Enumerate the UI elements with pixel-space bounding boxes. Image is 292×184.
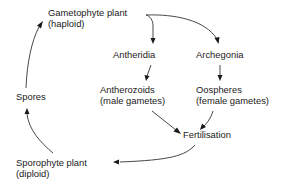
node-spores: Spores [16,92,46,103]
sporophyte-ploidy: (diploid) [16,169,87,180]
node-oospheres: Oospheres (female gametes) [196,85,269,106]
node-archegonia: Archegonia [196,50,243,61]
antherozoids-label: Antherozoids [100,85,165,96]
node-antheridia: Antheridia [113,50,155,61]
arrow-spores-to-gametophyte [26,21,43,88]
gametophyte-label: Gametophyte plant [48,8,127,19]
arrow-archegonia-to-oospheres [218,65,223,81]
node-gametophyte: Gametophyte plant (haploid) [48,8,127,29]
arrow-antheridia-to-antherozoids [145,65,152,81]
arrow-fertilisation-to-sporophyte [113,145,195,165]
node-fertilisation: Fertilisation [183,130,231,141]
arrow-sporophyte-to-spores [25,108,54,153]
node-sporophyte: Sporophyte plant (diploid) [16,158,87,179]
antherozoids-description: (male gametes) [100,96,165,107]
fertilisation-label: Fertilisation [183,130,231,141]
arrow-oospheres-to-fertilisation [200,111,213,130]
arrow-gametophyte-to-antheridia [146,15,156,44]
oospheres-label: Oospheres [196,85,269,96]
sporophyte-label: Sporophyte plant [16,158,87,169]
antheridia-label: Antheridia [113,50,155,61]
node-antherozoids: Antherozoids (male gametes) [100,85,165,106]
oospheres-description: (female gametes) [196,96,269,107]
spores-label: Spores [16,92,46,103]
arrow-antherozoids-to-fertilisation [152,111,181,134]
archegonia-label: Archegonia [196,50,243,61]
arrow-gametophyte-to-archegonia [146,15,220,44]
gametophyte-ploidy: (haploid) [48,19,127,30]
